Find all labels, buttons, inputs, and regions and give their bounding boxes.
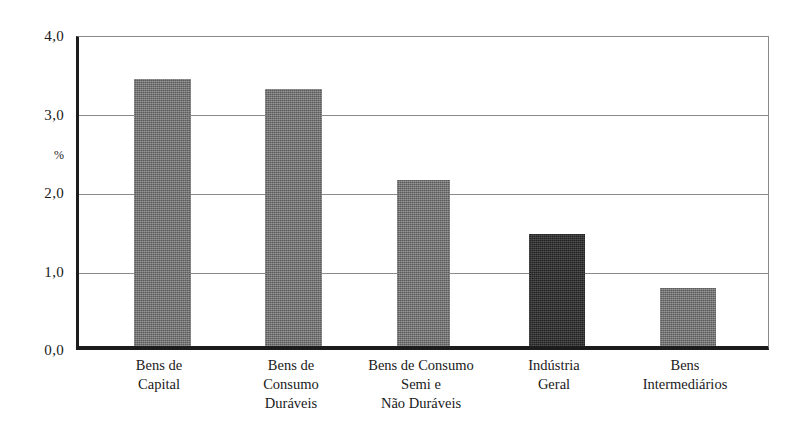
bar-chart-figure: 4,0 3,0 % 2,0 1,0 0,0 Bens de Capital Be… <box>0 0 806 440</box>
y-axis: 4,0 3,0 % 2,0 1,0 0,0 <box>0 36 66 350</box>
y-axis-title: % <box>0 149 64 161</box>
y-tick-label-2: 2,0 <box>0 186 64 201</box>
y-tick-label-3: 3,0 <box>0 108 64 123</box>
bar-bens-de-consumo-semi-e-nao-duraveis[interactable] <box>397 180 450 346</box>
x-axis: Bens de Capital Bens de Consumo Duráveis… <box>76 356 769 440</box>
bar-bens-intermediarios[interactable] <box>660 288 716 346</box>
y-tick-label-4: 4,0 <box>0 29 64 44</box>
x-tick-label-bens-intermediarios: Bens Intermediários <box>585 356 785 394</box>
x-label-line: Intermediários <box>585 375 785 394</box>
bar-bens-de-consumo-duraveis[interactable] <box>265 89 322 346</box>
x-label-line: Bens <box>585 356 785 375</box>
y-tick-label-0: 0,0 <box>0 343 64 358</box>
x-label-line: Não Duráveis <box>321 394 521 413</box>
bar-bens-de-capital[interactable] <box>134 79 191 346</box>
y-tick-label-1: 1,0 <box>0 265 64 280</box>
bar-industria-geral[interactable] <box>529 234 585 346</box>
plot-area <box>76 36 769 350</box>
